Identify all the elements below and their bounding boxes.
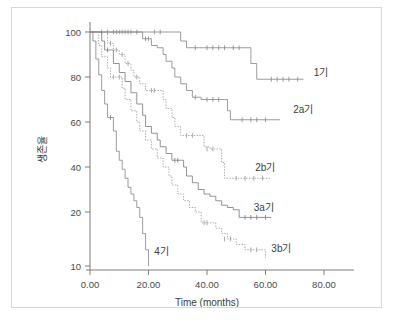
survival-curve-3a기: [90, 32, 271, 217]
x-tick-label: 60.00: [254, 279, 278, 290]
series-label-3b기: 3b기: [271, 243, 291, 254]
x-tick-label: 0.00: [81, 279, 100, 290]
chart-frame: 10080604020100.0020.0040.0060.0080.00Tim…: [11, 7, 382, 308]
y-tick-label: 40: [70, 162, 81, 173]
y-tick-label: 60: [70, 117, 81, 128]
kaplan-meier-plot: 10080604020100.0020.0040.0060.0080.00Tim…: [12, 8, 381, 307]
y-tick-label: 80: [70, 72, 81, 83]
survival-chart-figure: 10080604020100.0020.0040.0060.0080.00Tim…: [0, 0, 393, 334]
y-tick-label: 10: [70, 261, 81, 272]
y-tick-label: 100: [65, 27, 81, 38]
x-tick-label: 20.00: [137, 279, 161, 290]
y-tick-label: 20: [70, 207, 81, 218]
series-label-4기: 4기: [154, 246, 169, 257]
survival-curve-2b기: [90, 32, 271, 178]
x-axis-title: Time (months): [175, 297, 239, 307]
survival-curve-2a기: [90, 32, 280, 120]
series-label-1기: 1기: [314, 67, 329, 78]
series-label-3a기: 3a기: [254, 202, 274, 213]
y-axis-title-group: 생존율: [37, 136, 48, 163]
y-axis-title: 생존율: [37, 136, 48, 163]
series-label-2a기: 2a기: [293, 104, 313, 115]
x-tick-label: 40.00: [195, 279, 219, 290]
x-tick-label: 80.00: [312, 279, 336, 290]
series-label-2b기: 2b기: [255, 162, 275, 173]
